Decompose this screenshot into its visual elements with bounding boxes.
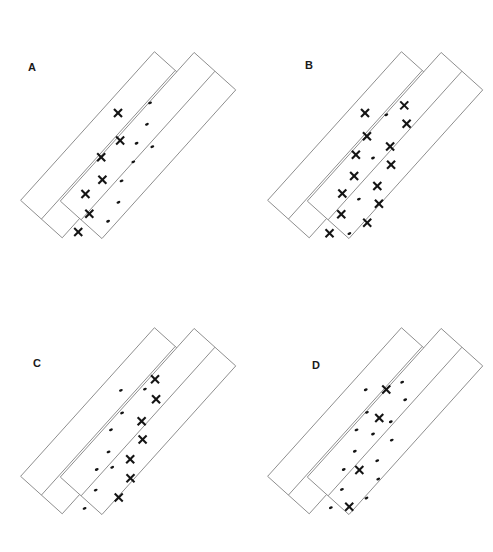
- panel-label-b: B: [305, 60, 313, 71]
- marker-x: [326, 229, 334, 237]
- panel-a: A: [0, 0, 246, 276]
- marker-dot: [82, 506, 87, 510]
- panel-graphic-d: [247, 276, 493, 552]
- panel-label-d: D: [312, 360, 320, 371]
- figure-caption: [0, 544, 493, 552]
- marker-x: [74, 228, 82, 236]
- panel-label-a: A: [28, 62, 36, 73]
- panel-c: C: [0, 276, 246, 552]
- panel-graphic-b: [247, 0, 493, 276]
- panel-label-c: C: [33, 358, 41, 369]
- marker-x: [363, 219, 371, 227]
- panel-b: B: [247, 0, 493, 276]
- figure-canvas: ABCD: [0, 0, 493, 552]
- panel-graphic-a: [0, 0, 246, 276]
- marker-dot: [329, 506, 334, 510]
- panel-graphic-c: [0, 276, 246, 552]
- panel-d: D: [247, 276, 493, 552]
